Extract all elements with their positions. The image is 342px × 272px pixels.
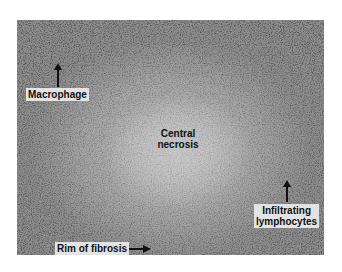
central-necrosis-label: Central necrosis [150,128,206,150]
infiltrating-lymphocytes-label: Infiltrating lymphocytes [254,204,319,228]
infiltrating-line2: lymphocytes [256,216,317,227]
rim-of-fibrosis-arrow-icon [129,244,151,254]
rim-of-fibrosis-label: Rim of fibrosis [55,242,129,255]
central-necrosis-line1: Central [150,128,206,139]
lymphocytes-arrow-icon [283,180,291,202]
macrophage-arrow-icon [54,63,62,87]
macrophage-label: Macrophage [26,88,89,101]
infiltrating-line1: Infiltrating [256,205,317,216]
central-necrosis-line2: necrosis [150,139,206,150]
